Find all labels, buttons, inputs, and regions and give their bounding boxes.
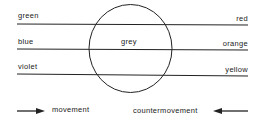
label-blue: blue [18, 38, 33, 46]
label-violet: violet [18, 63, 37, 71]
label-grey: grey [121, 38, 137, 46]
center-circle [89, 5, 172, 93]
label-red: red [236, 15, 248, 23]
label-green: green [18, 12, 39, 20]
line-green-red [17, 24, 248, 25]
line-violet-yellow [17, 74, 248, 76]
diagram-canvas [0, 0, 261, 125]
legend-movement-label: movement [52, 106, 89, 114]
label-yellow: yellow [225, 66, 248, 74]
countermovement-arrow-icon [213, 108, 248, 114]
movement-arrow-icon [17, 108, 45, 114]
line-blue-orange [17, 49, 248, 50]
label-orange: orange [223, 40, 248, 48]
legend-countermovement-label: countermovement [133, 107, 198, 115]
